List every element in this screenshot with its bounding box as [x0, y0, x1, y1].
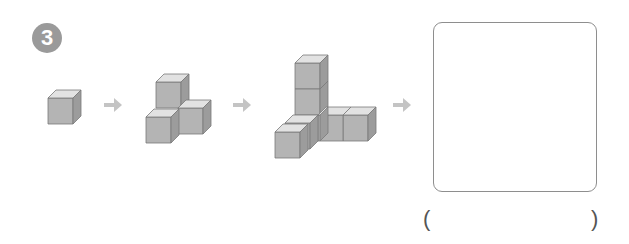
problem-number-badge: 3 [32, 23, 62, 53]
answer-open-paren: ( [423, 206, 430, 232]
answer-close-paren: ) [591, 206, 598, 232]
drawing-answer-box[interactable] [433, 22, 597, 192]
answer-field[interactable] [440, 206, 580, 232]
arrow-icon [104, 97, 124, 113]
figure-step-2 [140, 70, 215, 150]
figure-step-1 [44, 86, 88, 130]
arrow-icon [393, 97, 413, 113]
arrow-icon [233, 97, 253, 113]
figure-step-3 [270, 50, 380, 165]
